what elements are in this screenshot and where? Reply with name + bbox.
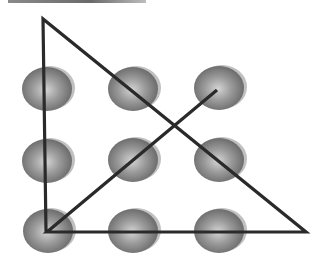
dot	[22, 139, 72, 183]
solution-lines	[43, 19, 306, 232]
nine-dot-diagram	[0, 0, 320, 261]
dot	[22, 67, 72, 111]
